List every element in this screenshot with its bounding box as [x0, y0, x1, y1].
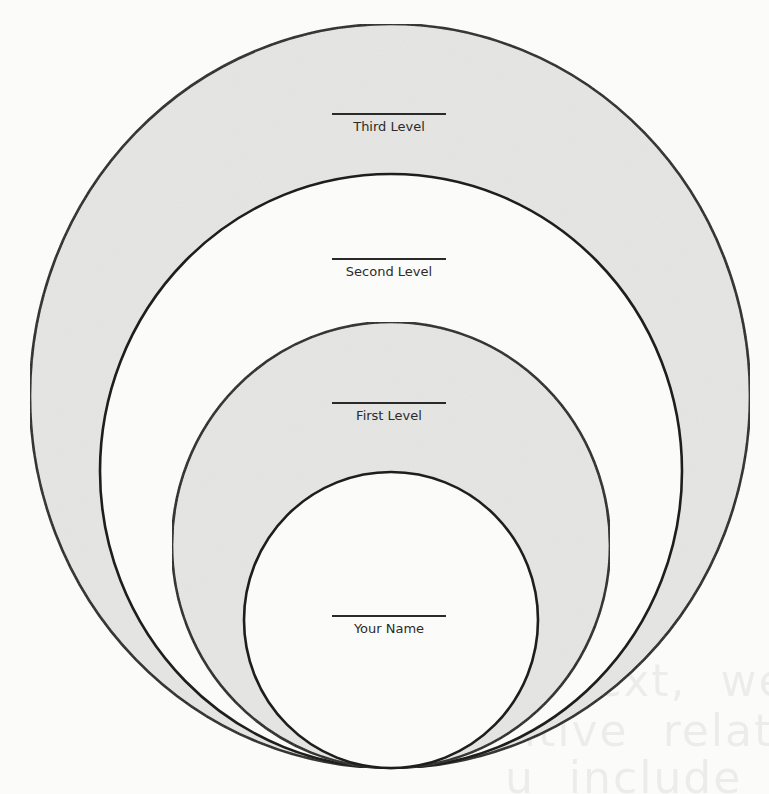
your-name-label: Your Name	[309, 615, 469, 637]
first-level-text: First Level	[309, 408, 469, 424]
second-level-text: Second Level	[309, 264, 469, 280]
your-name-line	[332, 615, 446, 617]
nested-circles-diagram: Next, we'll identify your healthy an osi…	[0, 0, 769, 794]
third-level-text: Third Level	[309, 119, 469, 135]
second-level-name-line	[332, 258, 446, 260]
second-level-label: Second Level	[309, 258, 469, 280]
your-name-text: Your Name	[309, 621, 469, 637]
third-level-label: Third Level	[309, 113, 469, 135]
third-level-name-line	[332, 113, 446, 115]
first-level-name-line	[332, 402, 446, 404]
first-level-label: First Level	[309, 402, 469, 424]
